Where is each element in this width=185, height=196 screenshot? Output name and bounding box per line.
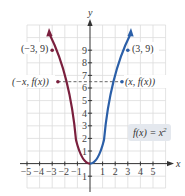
y-tick-label: 4 bbox=[82, 108, 87, 119]
y-axis-label: y bbox=[87, 7, 93, 18]
function-label: f(x) = x2 bbox=[133, 126, 167, 139]
x-tick-label: 5 bbox=[151, 166, 156, 177]
x-tick-label: 2 bbox=[113, 166, 118, 177]
point-3-9 bbox=[126, 48, 130, 52]
y-tick-label: 8 bbox=[82, 57, 87, 68]
y-tick-label: 9 bbox=[82, 45, 87, 56]
point-label-neg-x: (−x, f(x)) bbox=[12, 76, 49, 88]
y-tick-label: 5 bbox=[82, 95, 87, 106]
function-label-exp: 2 bbox=[163, 126, 167, 134]
function-label-rest: (x) = x bbox=[136, 127, 164, 139]
x-axis-label: x bbox=[175, 158, 181, 169]
point-neg-x bbox=[56, 80, 60, 84]
x-tick-label: −4 bbox=[33, 166, 44, 177]
x-tick-label: 4 bbox=[138, 166, 143, 177]
point-neg3-9 bbox=[50, 48, 54, 52]
x-tick-label: −2 bbox=[58, 166, 69, 177]
x-tick-labels: −5 −4 −3 −2 −1 1 2 3 4 5 bbox=[21, 166, 156, 177]
x-tick-label: −3 bbox=[46, 166, 57, 177]
parabola-right-branch bbox=[90, 35, 130, 164]
y-tick-label: 1 bbox=[82, 171, 87, 182]
y-tick-label: 3 bbox=[82, 120, 87, 131]
y-tick-label: 1 bbox=[82, 146, 87, 157]
point-label-x: (x, f(x)) bbox=[125, 76, 156, 88]
parabola-chart: −5 −4 −3 −2 −1 1 2 3 4 5 1 1 2 3 4 5 6 7… bbox=[0, 0, 185, 196]
x-tick-label: 1 bbox=[100, 166, 105, 177]
y-tick-label: 7 bbox=[82, 70, 87, 81]
y-tick-label: 6 bbox=[82, 82, 87, 93]
y-axis-arrow-icon bbox=[87, 19, 92, 26]
right-arrow-icon bbox=[128, 28, 134, 37]
x-tick-label: 3 bbox=[125, 166, 130, 177]
left-arrow-icon bbox=[46, 28, 52, 37]
point-label-3-9: (3, 9) bbox=[132, 43, 154, 55]
point-x bbox=[120, 80, 124, 84]
x-tick-label: −1 bbox=[71, 166, 82, 177]
x-axis-arrow-icon bbox=[167, 161, 174, 166]
y-tick-label: 2 bbox=[82, 133, 87, 144]
point-label-neg3-9: (−3, 9) bbox=[21, 43, 48, 55]
x-tick-label: −5 bbox=[21, 166, 32, 177]
